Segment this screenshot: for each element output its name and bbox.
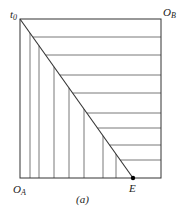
box-frame (20, 19, 161, 178)
point-e-marker (131, 176, 135, 180)
caption: (a) (76, 193, 89, 206)
label-oa: OA (13, 183, 26, 197)
label-t0: t0 (10, 8, 17, 22)
label-ob: OB (163, 6, 176, 20)
label-e: E (128, 182, 136, 194)
line-grid (30, 33, 161, 178)
diagonal-line (20, 19, 133, 178)
diagram-canvas: t0 OB OA E (a) (0, 0, 183, 213)
